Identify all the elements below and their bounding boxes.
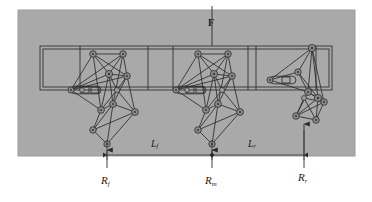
middle-reaction-label: Rm	[205, 175, 217, 187]
rear-reaction-label: Rr	[298, 172, 307, 184]
mechanism-load-diagram: F Lf Lr Rf Rm Rr	[0, 0, 372, 202]
front-reaction-label: Rf	[101, 175, 110, 187]
diagram-canvas	[0, 0, 372, 202]
applied-force-label: F	[208, 18, 214, 28]
front-span-label: Lf	[151, 139, 158, 150]
rear-span-label: Lr	[248, 139, 256, 150]
